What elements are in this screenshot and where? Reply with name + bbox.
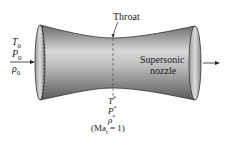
outlet-rim xyxy=(189,26,201,100)
supersonic-label: Supersonic xyxy=(140,55,184,65)
nozzle-label: nozzle xyxy=(150,66,176,76)
inlet-P0-label: P0 xyxy=(12,49,22,63)
throat-mach-label: (Mat = 1) xyxy=(91,123,125,137)
throat-label: Throat xyxy=(113,12,140,22)
inlet-rho0-label: ρ0 xyxy=(12,64,20,78)
inlet-rim xyxy=(35,25,45,100)
